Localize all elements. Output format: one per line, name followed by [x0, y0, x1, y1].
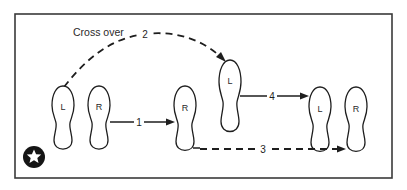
foot-5: L	[309, 87, 331, 151]
footwork-diagram: Cross over 2 L R R L L R 1	[0, 0, 407, 190]
cross-over-caption: Cross over	[73, 26, 124, 38]
step-4-number: 4	[269, 91, 275, 102]
foot-1-label: L	[60, 102, 65, 112]
foot-2: R	[88, 86, 110, 149]
foot-2-label: R	[96, 102, 103, 112]
foot-1: L	[52, 86, 74, 149]
foot-4-label: L	[227, 75, 232, 87]
step-1-arrow: 1	[110, 116, 175, 128]
star-icon	[23, 146, 45, 168]
step-3-number: 3	[260, 144, 266, 155]
arrowhead-icon	[216, 52, 226, 62]
step-2-number: 2	[142, 29, 148, 40]
arrowhead-icon	[300, 93, 309, 100]
step-4-arrow: 4	[240, 90, 309, 102]
arrowhead-icon	[166, 119, 175, 126]
arrowhead-icon	[337, 146, 346, 153]
foot-3-label: R	[182, 103, 189, 113]
foot-4: L	[219, 60, 241, 132]
foot-6: R	[345, 87, 367, 151]
foot-6-label: R	[353, 104, 360, 114]
foot-5-label: L	[317, 104, 322, 114]
step-1-number: 1	[136, 117, 142, 128]
foot-3: R	[174, 86, 196, 150]
